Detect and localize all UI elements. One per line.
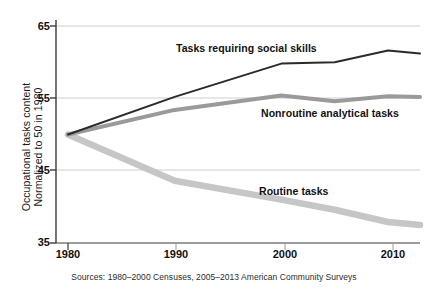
y-axis-ticks <box>50 26 56 243</box>
x-tick-label-1980: 1980 <box>38 248 98 260</box>
series-label-routine-tasks: Routine tasks <box>259 185 329 197</box>
series-line-routine-tasks <box>68 135 420 225</box>
series-label-tasks-requiring-social-skills: Tasks requiring social skills <box>176 42 317 54</box>
x-tick-label-2000: 2000 <box>255 248 315 260</box>
x-tick-label-2010: 2010 <box>363 248 423 260</box>
chart-figure: Occupational tasks content Normalized to… <box>0 0 428 293</box>
source-note: Sources: 1980–2000 Censuses, 2005–2013 A… <box>0 272 428 282</box>
x-tick-label-1990: 1990 <box>146 248 206 260</box>
series-label-nonroutine-analytical-tasks: Nonroutine analytical tasks <box>261 107 399 119</box>
x-axis-ticks <box>68 243 393 250</box>
